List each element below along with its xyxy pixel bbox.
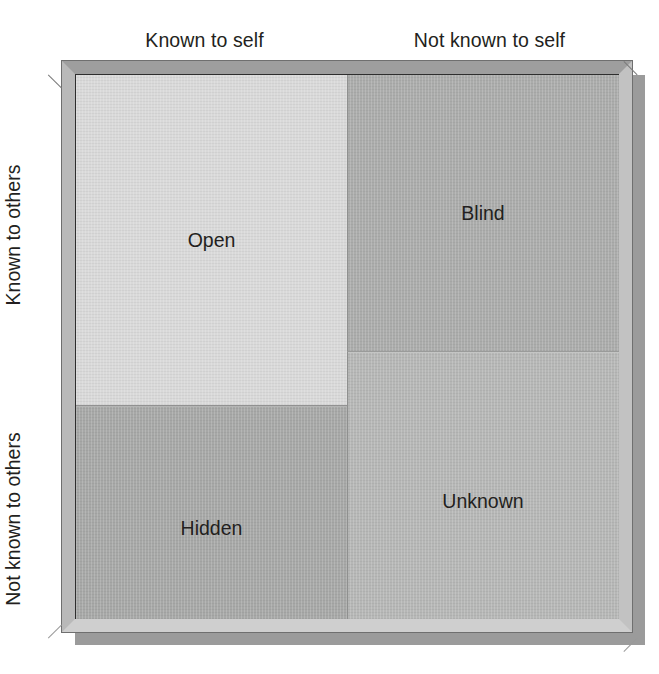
quadrant-open-label: Open xyxy=(76,229,347,252)
column-header-known-to-self: Known to self xyxy=(62,27,347,53)
quadrant-matrix: Open Blind Hidden Unknown xyxy=(76,75,619,619)
row-header-not-known-to-others: Not known to others xyxy=(0,410,26,628)
quadrant-blind: Blind xyxy=(347,75,619,351)
row-header-known-to-others-text: Known to others xyxy=(0,120,26,350)
quadrant-open: Open xyxy=(76,75,347,405)
quadrant-blind-label: Blind xyxy=(347,202,619,225)
quadrant-hidden: Hidden xyxy=(76,405,347,619)
row-header-not-known-to-others-text: Not known to others xyxy=(0,410,26,628)
quadrant-unknown: Unknown xyxy=(347,351,619,619)
column-header-not-known-to-self: Not known to self xyxy=(347,27,632,53)
quadrant-hidden-label: Hidden xyxy=(76,517,347,540)
johari-window-diagram: Known to self Not known to self Known to… xyxy=(0,0,659,674)
quadrant-unknown-label: Unknown xyxy=(347,490,619,513)
row-header-known-to-others: Known to others xyxy=(0,120,26,350)
